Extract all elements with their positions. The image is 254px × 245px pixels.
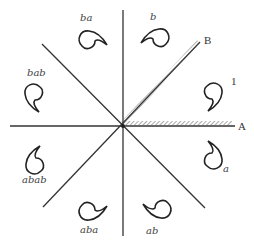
mirror-a-hatching <box>124 121 232 125</box>
figure-ab <box>143 201 171 219</box>
figure-bab <box>25 84 43 112</box>
figure-b <box>141 29 169 47</box>
figure-abab <box>26 146 44 174</box>
figure-a-label: a <box>223 163 229 174</box>
region-one-label: 1 <box>231 75 237 87</box>
mirror-b-hatching <box>121 40 200 125</box>
figure-identity <box>205 83 223 111</box>
mirror-a-label: A <box>238 120 246 132</box>
figure-aba <box>79 203 107 221</box>
mirror-b-label: B <box>204 34 211 46</box>
figure-ab-label: ab <box>146 225 158 236</box>
center-point <box>121 124 125 128</box>
figure-aba-label: aba <box>80 224 98 235</box>
figure-abab-label: abab <box>22 174 47 185</box>
figure-b-label: b <box>150 11 156 22</box>
figure-bab-label: bab <box>27 67 46 78</box>
figure-ba <box>79 31 107 49</box>
figure-a <box>205 141 223 169</box>
symmetry-diagram: A B 1 a ab aba abab bab ba b <box>0 0 254 245</box>
figure-ba-label: ba <box>80 12 92 23</box>
